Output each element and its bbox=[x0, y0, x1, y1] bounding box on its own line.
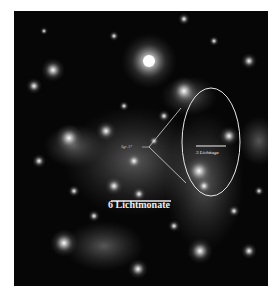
scale-label-small: 3 Lichttage bbox=[196, 150, 219, 155]
pointer-label: Sgr A* bbox=[121, 144, 132, 149]
star-field-svg bbox=[14, 11, 268, 286]
scale-label-large: 6 Lichtmonate bbox=[108, 199, 170, 210]
star-field-image bbox=[14, 11, 268, 286]
